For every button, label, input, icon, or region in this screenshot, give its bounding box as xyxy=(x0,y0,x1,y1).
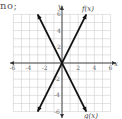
x-axis-label: x xyxy=(114,60,118,68)
svg-text:-2: -2 xyxy=(42,64,48,71)
svg-text:-4: -4 xyxy=(26,64,32,71)
svg-text:6: 6 xyxy=(57,10,61,17)
coordinate-plane: -6-4-2246642-2-4-6 y x f(x) g(x) xyxy=(0,0,122,119)
svg-text:2: 2 xyxy=(57,43,61,50)
svg-text:-4: -4 xyxy=(54,91,60,98)
svg-text:6: 6 xyxy=(109,64,113,71)
svg-text:-6: -6 xyxy=(9,64,15,71)
svg-text:-6: -6 xyxy=(54,108,60,115)
g-label: g(x) xyxy=(84,112,98,119)
svg-text:4: 4 xyxy=(57,27,61,34)
svg-text:4: 4 xyxy=(92,64,96,71)
svg-text:2: 2 xyxy=(76,64,80,71)
f-label: f(x) xyxy=(81,5,94,13)
